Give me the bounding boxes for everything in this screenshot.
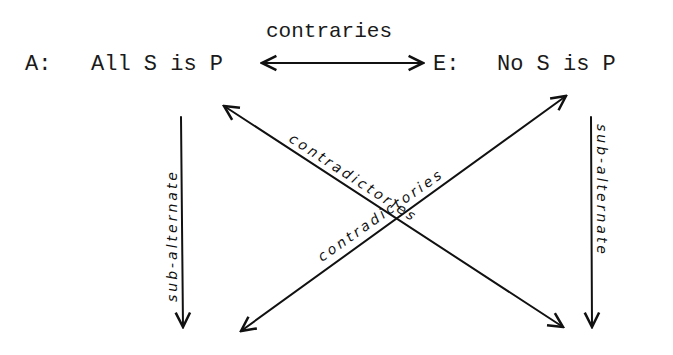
- subalternate-arrow-right: [591, 117, 592, 327]
- relation-arrows: contradictories contradictories sub-alte…: [0, 0, 673, 355]
- contradictories-label-1: contradictories: [286, 130, 421, 225]
- contradictories-arrow-a-o: [224, 106, 563, 327]
- subalternate-arrow-left: [181, 117, 183, 327]
- square-of-opposition-diagram: A: All S is P E: No S is P contraries co…: [0, 0, 673, 355]
- subalternate-label-right: sub-alternate: [594, 124, 610, 257]
- subalternate-label-left: sub-alternate: [164, 169, 180, 302]
- contradictories-label-2: contradictories: [315, 165, 447, 264]
